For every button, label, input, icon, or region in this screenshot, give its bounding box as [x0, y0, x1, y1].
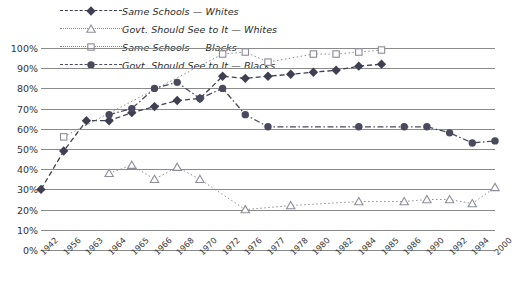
data-point-square: [265, 59, 271, 65]
data-point-circle: [355, 123, 362, 130]
data-point-triangle: [173, 163, 181, 170]
data-point-square: [378, 47, 384, 53]
data-point-diamond: [241, 74, 250, 83]
data-point-square: [219, 51, 225, 57]
data-point-circle: [151, 85, 158, 92]
data-point-triangle: [150, 175, 158, 182]
data-point-square: [242, 49, 248, 55]
data-point-circle: [196, 95, 203, 102]
data-point-circle: [491, 137, 498, 144]
data-point-diamond: [36, 185, 45, 194]
data-point-circle: [105, 111, 112, 118]
x-axis-labels: 1942195619631964196519661968197019721976…: [0, 250, 506, 286]
data-point-circle: [219, 85, 226, 92]
data-point-circle: [242, 111, 249, 118]
data-point-circle: [264, 123, 271, 130]
data-point-square: [333, 51, 339, 57]
data-point-diamond: [82, 116, 91, 125]
data-point-triangle: [423, 196, 431, 203]
data-point-triangle: [445, 196, 453, 203]
data-point-diamond: [309, 68, 318, 77]
data-point-circle: [446, 129, 453, 136]
data-point-circle: [401, 123, 408, 130]
series-line: [109, 165, 495, 209]
data-point-square: [310, 51, 316, 57]
series-2: [61, 47, 385, 140]
data-point-triangle: [105, 169, 113, 176]
data-point-diamond: [263, 72, 272, 81]
data-point-diamond: [286, 70, 295, 79]
data-point-circle: [128, 105, 135, 112]
data-point-diamond: [173, 96, 182, 105]
data-point-triangle: [355, 198, 363, 205]
data-point-diamond: [331, 66, 340, 75]
data-point-triangle: [491, 183, 499, 190]
data-point-triangle: [196, 175, 204, 182]
data-point-circle: [174, 79, 181, 86]
series-3: [105, 79, 498, 147]
data-point-diamond: [59, 146, 68, 155]
series-1: [105, 161, 499, 213]
data-point-square: [356, 49, 362, 55]
series-line: [109, 82, 495, 143]
data-point-triangle: [241, 206, 249, 213]
data-point-diamond: [150, 102, 159, 111]
data-point-circle: [469, 139, 476, 146]
data-point-square: [61, 134, 67, 140]
data-point-diamond: [377, 59, 386, 68]
data-point-circle: [423, 123, 430, 130]
series-0: [36, 59, 386, 194]
series-line: [64, 50, 382, 137]
data-point-diamond: [354, 62, 363, 71]
data-point-triangle: [468, 200, 476, 207]
data-point-triangle: [128, 161, 136, 168]
